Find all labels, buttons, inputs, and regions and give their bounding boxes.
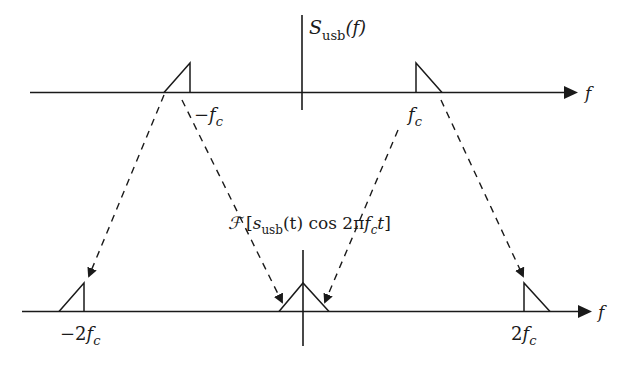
arrow-neg-fc-to-neg-2fc — [89, 95, 164, 276]
frequency-translation-diagram: Susb(f) f −fc fc ℱ[susb(t) cos 2πfct] f … — [0, 0, 633, 365]
top-spectrum-plot: Susb(f) f −fc fc — [30, 15, 594, 129]
tick-label-neg-2fc: −2fc — [60, 323, 101, 348]
translation-arrows — [89, 95, 523, 302]
tick-label-neg-fc: −fc — [194, 104, 224, 129]
bottom-spectrum-plot: f −2fc 2fc — [22, 250, 607, 348]
top-negative-sideband — [164, 63, 190, 93]
bottom-pos-2fc-sideband — [524, 283, 550, 312]
bottom-neg-2fc-sideband — [59, 283, 84, 312]
tick-label-pos-fc: fc — [406, 104, 423, 129]
top-axis-label: f — [583, 83, 594, 103]
arrow-neg-fc-to-origin — [182, 100, 282, 302]
bottom-axis-label: f — [596, 302, 607, 322]
tick-label-pos-2fc: 2fc — [511, 323, 537, 348]
bottom-baseband-spectrum — [279, 283, 329, 312]
bottom-axis-arrowhead-icon — [578, 305, 592, 318]
modulation-expression-label: ℱ[susb(t) cos 2πfct] — [228, 213, 391, 237]
top-positive-sideband — [416, 63, 442, 93]
top-axis-arrowhead-icon — [564, 86, 578, 99]
top-plot-title: Susb(f) — [309, 16, 366, 43]
arrow-pos-fc-to-pos-2fc — [441, 100, 523, 276]
